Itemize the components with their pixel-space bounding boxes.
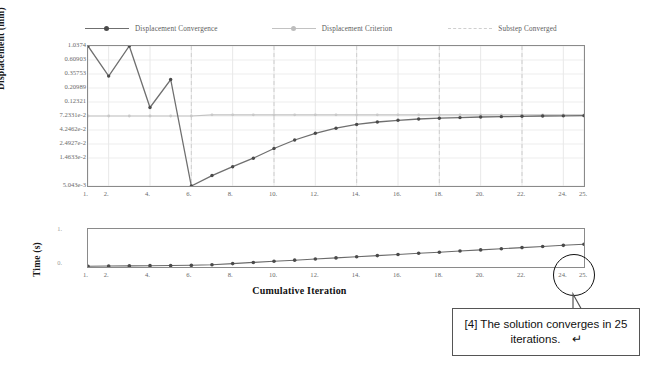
y-tick-label: 1.4633e-2	[34, 153, 86, 161]
y-tick-label: 7.2331e-2	[34, 111, 86, 119]
y-axis-tick-top-time: 1.	[48, 225, 62, 232]
x-tick-label: 8.	[228, 190, 233, 197]
x-tick-label: 1.	[83, 190, 88, 197]
legend-label-substep: Substep Converged	[498, 25, 557, 33]
displacement-convergence-chart: Displacement (mm) 1.03740.609030.357530.…	[0, 38, 659, 206]
x-tick-label: 10.	[269, 190, 277, 197]
y-axis-tick-labels-top: 1.03740.609030.357530.209890.123217.2331…	[34, 38, 86, 193]
chart-legend: Displacement Convergence Displacement Cr…	[85, 21, 585, 37]
x-tick-label: 16.	[393, 271, 401, 278]
plot-area-bottom	[87, 228, 585, 268]
convergence-series-svg	[88, 46, 584, 186]
y-tick-label: 2.4927e-2	[34, 139, 86, 147]
y-tick-label: 0.60903	[34, 55, 86, 63]
x-tick-label: 14.	[352, 190, 360, 197]
circle-highlight-last-iteration	[553, 254, 595, 296]
x-tick-label: 25.	[579, 190, 587, 197]
legend-dashed-icon-substep	[448, 24, 492, 34]
plot-area-top	[87, 45, 585, 187]
x-tick-label: 2.	[104, 271, 109, 278]
x-tick-label: 20.	[476, 271, 484, 278]
x-tick-label: 22.	[517, 190, 525, 197]
y-tick-label: 1.0374	[34, 41, 86, 49]
x-tick-label: 8.	[228, 271, 233, 278]
legend-item-displacement-criterion: Displacement Criterion	[272, 21, 393, 37]
legend-line-icon-criterion	[272, 24, 316, 34]
y-axis-title-displacement: Displacement (mm)	[0, 7, 6, 90]
callout-text: [4] The solution converges in 25 iterati…	[453, 317, 639, 347]
x-axis-title-cumulative-iteration: Cumulative Iteration	[252, 285, 346, 296]
legend-label-convergence: Displacement Convergence	[135, 25, 218, 33]
x-tick-label: 4.	[145, 271, 150, 278]
y-tick-label: 0.20989	[34, 83, 86, 91]
x-tick-label: 10.	[269, 271, 277, 278]
x-tick-label: 16.	[393, 190, 401, 197]
x-tick-label: 24.	[558, 190, 566, 197]
x-tick-label: 14.	[352, 271, 360, 278]
x-axis-tick-labels-top: 1.2.4.6.8.10.12.14.16.18.20.22.24.25.	[87, 190, 597, 202]
x-tick-label: 6.	[186, 190, 191, 197]
x-tick-label: 12.	[310, 271, 318, 278]
y-tick-label: 4.2462e-2	[34, 125, 86, 133]
y-tick-label: 5.043e-3	[34, 181, 86, 189]
y-axis-title-time: Time (s)	[32, 242, 42, 277]
x-tick-label: 12.	[310, 190, 318, 197]
x-tick-label: 22.	[517, 271, 525, 278]
legend-item-substep-converged: Substep Converged	[448, 21, 557, 37]
legend-line-icon-convergence	[85, 24, 129, 34]
x-tick-label: 18.	[434, 271, 442, 278]
x-tick-label: 1.	[83, 271, 88, 278]
legend-label-criterion: Displacement Criterion	[322, 25, 393, 33]
y-tick-label: 0.35753	[34, 69, 86, 77]
x-tick-label: 18.	[434, 190, 442, 197]
x-tick-label: 6.	[186, 271, 191, 278]
x-tick-label: 20.	[476, 190, 484, 197]
x-tick-label: 2.	[104, 190, 109, 197]
y-tick-label: 0.12321	[34, 97, 86, 105]
legend-item-displacement-convergence: Displacement Convergence	[85, 21, 218, 37]
time-series-svg	[88, 229, 584, 267]
y-axis-tick-bottom-time: 0.	[48, 259, 62, 266]
x-tick-label: 4.	[145, 190, 150, 197]
x-axis-tick-labels-bottom: 1.2.4.6.8.10.12.14.16.18.20.22.24.25.	[87, 271, 597, 283]
callout-message: [4] The solution converges in 25 iterati…	[465, 318, 628, 345]
enter-key-icon: ↵	[572, 332, 582, 346]
callout-box-solution-converges: [4] The solution converges in 25 iterati…	[452, 308, 640, 356]
chart-canvas: Displacement Convergence Displacement Cr…	[0, 0, 659, 367]
